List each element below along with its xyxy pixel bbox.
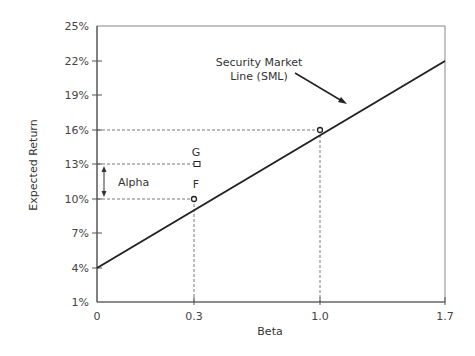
- svg-text:7%: 7%: [72, 227, 89, 240]
- svg-text:0: 0: [94, 310, 101, 323]
- svg-text:25%: 25%: [65, 20, 89, 33]
- y-tick-labels: 25% 22% 19% 16% 13% 10% 7% 4% 1%: [65, 20, 89, 309]
- svg-text:1%: 1%: [72, 296, 89, 309]
- sml-label-line2: Line (SML): [230, 70, 288, 83]
- alpha-label: Alpha: [118, 176, 149, 189]
- sml-pointer-arrow-icon: [295, 73, 347, 104]
- point-f-marker: [192, 197, 197, 202]
- y-axis-title: Expected Return: [27, 119, 40, 210]
- sml-line: [97, 61, 445, 268]
- svg-text:4%: 4%: [72, 262, 89, 275]
- svg-text:19%: 19%: [65, 89, 89, 102]
- svg-text:10%: 10%: [65, 193, 89, 206]
- svg-text:0.3: 0.3: [185, 310, 203, 323]
- point-f-label: F: [193, 178, 199, 191]
- svg-text:22%: 22%: [65, 55, 89, 68]
- market-point-marker: [318, 128, 323, 133]
- x-ticks: [194, 297, 445, 305]
- point-g-marker: [194, 162, 200, 167]
- sml-label-line1: Security Market: [216, 56, 303, 69]
- svg-text:1.7: 1.7: [436, 310, 454, 323]
- x-axis-title: Beta: [257, 325, 282, 338]
- alpha-arrow-icon: [102, 166, 107, 197]
- svg-text:1.0: 1.0: [311, 310, 329, 323]
- point-g-label: G: [192, 146, 201, 159]
- sml-chart: 25% 22% 19% 16% 13% 10% 7% 4% 1% 0 0.3 1…: [0, 0, 475, 356]
- x-tick-labels: 0 0.3 1.0 1.7: [94, 310, 454, 323]
- svg-text:13%: 13%: [65, 158, 89, 171]
- svg-text:16%: 16%: [65, 124, 89, 137]
